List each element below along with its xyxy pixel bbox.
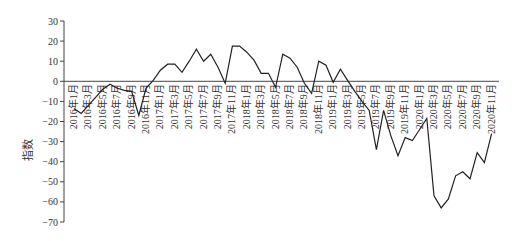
x-tick-label: 2017年3月: [168, 84, 180, 129]
x-tick-label: 2017年9月: [211, 84, 223, 129]
y-tick-label: −50: [42, 176, 58, 187]
y-axis: 3020100−10−20−30−40−50−60−70: [42, 16, 64, 228]
x-tick-label: 2020年1月: [413, 84, 425, 129]
y-tick-label: −20: [42, 116, 58, 127]
x-tick-label: 2020年11月: [485, 84, 497, 134]
x-tick-label: 2018年5月: [269, 84, 281, 129]
x-tick-label: 2017年1月: [153, 84, 165, 129]
x-tick-label: 2020年5月: [441, 84, 453, 129]
x-tick-label: 2020年7月: [456, 84, 468, 129]
y-tick-label: 10: [48, 56, 58, 67]
x-tick-label: 2016年7月: [110, 84, 122, 129]
y-tick-label: −40: [42, 156, 58, 167]
x-tick-label: 2019年11月: [398, 84, 410, 134]
y-tick-label: −70: [42, 217, 58, 228]
x-tick-label: 2016年1月: [67, 84, 79, 129]
y-tick-label: 0: [53, 76, 58, 87]
line-chart: 3020100−10−20−30−40−50−60−70 2016年1月2016…: [0, 0, 521, 241]
x-tick-label: 2018年9月: [297, 84, 309, 129]
x-tick-label: 2018年11月: [312, 84, 324, 134]
x-tick-label: 2017年7月: [197, 84, 209, 129]
x-tick-label: 2019年9月: [384, 84, 396, 129]
x-tick-label: 2018年3月: [254, 84, 266, 129]
y-tick-label: 20: [48, 36, 58, 47]
y-tick-label: −60: [42, 196, 58, 207]
x-tick-label: 2020年3月: [427, 84, 439, 129]
x-tick-label: 2019年1月: [326, 84, 338, 129]
y-tick-label: 30: [48, 16, 58, 27]
x-tick-label: 2020年9月: [470, 84, 482, 129]
x-tick-label: 2018年1月: [240, 84, 252, 129]
y-tick-label: −10: [42, 96, 58, 107]
x-tick-label: 2017年5月: [182, 84, 194, 129]
x-tick-label: 2019年3月: [341, 84, 353, 129]
y-axis-label: 指数: [21, 139, 34, 161]
x-tick-label: 2017年11月: [225, 84, 237, 134]
x-tick-label: 2019年5月: [355, 84, 367, 129]
x-tick-label: 2018年7月: [283, 84, 295, 129]
y-tick-label: −30: [42, 136, 58, 147]
